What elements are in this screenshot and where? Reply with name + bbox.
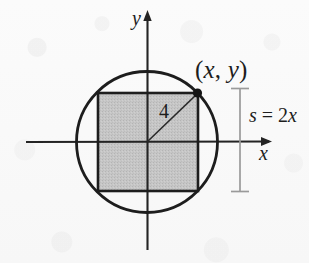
geometry-figure: (x, y) s = 2x 4 y x	[0, 0, 309, 263]
side-label-two: 2	[278, 104, 288, 126]
point-label: (x, y)	[195, 57, 248, 82]
figure-canvas	[0, 0, 309, 263]
side-label-equals: =	[257, 104, 278, 126]
y-axis-label: y	[132, 8, 141, 28]
point-label-comma: ,	[215, 56, 228, 83]
y-axis-arrowhead	[143, 10, 151, 21]
point-label-close: )	[239, 56, 248, 83]
side-label-x: x	[288, 104, 297, 126]
point-label-y: y	[228, 56, 239, 83]
point-label-x: x	[204, 56, 215, 83]
side-length-label: s = 2x	[249, 105, 297, 125]
point-marker	[193, 88, 202, 97]
side-label-s: s	[249, 104, 257, 126]
point-label-open: (	[195, 56, 204, 83]
x-axis-label: x	[259, 143, 268, 163]
radius-label: 4	[159, 101, 169, 121]
dimension-bar	[231, 88, 249, 192]
